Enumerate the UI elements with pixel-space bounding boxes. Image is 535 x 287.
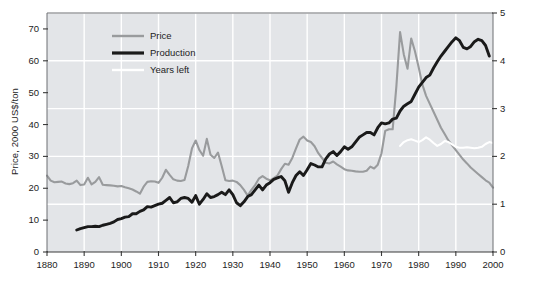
y-tick-right-2: 2 xyxy=(500,150,522,161)
y-tick-left-20: 20 xyxy=(17,182,39,193)
x-tick-2000: 2000 xyxy=(476,259,510,270)
y-tick-right-3: 3 xyxy=(500,103,522,114)
x-tick-1960: 1960 xyxy=(327,259,361,270)
y-tick-right-5: 5 xyxy=(500,7,522,18)
y-tick-right-4: 4 xyxy=(500,55,522,66)
y-tick-left-10: 10 xyxy=(17,214,39,225)
chart-canvas xyxy=(0,0,535,287)
y-tick-left-40: 40 xyxy=(17,119,39,130)
x-tick-1940: 1940 xyxy=(253,259,287,270)
x-tick-1910: 1910 xyxy=(142,259,176,270)
y-tick-left-70: 70 xyxy=(17,23,39,34)
y-tick-left-50: 50 xyxy=(17,87,39,98)
x-tick-1950: 1950 xyxy=(290,259,324,270)
x-tick-1900: 1900 xyxy=(104,259,138,270)
x-tick-1930: 1930 xyxy=(216,259,250,270)
legend-label-price: Price xyxy=(150,30,172,41)
x-tick-1890: 1890 xyxy=(67,259,101,270)
x-tick-1970: 1970 xyxy=(365,259,399,270)
x-tick-1990: 1990 xyxy=(439,259,473,270)
y-tick-right-1: 1 xyxy=(500,198,522,209)
legend-label-production: Production xyxy=(150,47,195,58)
y-tick-left-30: 30 xyxy=(17,150,39,161)
y-tick-left-0: 0 xyxy=(17,246,39,257)
x-tick-1880: 1880 xyxy=(30,259,64,270)
x-tick-1920: 1920 xyxy=(179,259,213,270)
x-tick-1980: 1980 xyxy=(402,259,436,270)
y-tick-left-60: 60 xyxy=(17,55,39,66)
chart-figure: Price, 2000 US$/ton Production, billion … xyxy=(0,0,535,287)
legend-label-years-left: Years left xyxy=(150,64,189,75)
y-tick-right-0: 0 xyxy=(500,246,522,257)
